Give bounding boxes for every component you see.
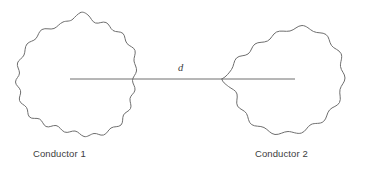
figure-canvas: d Conductor 1 Conductor 2 (0, 0, 367, 171)
conductor-1-label: Conductor 1 (33, 148, 86, 159)
distance-label-d: d (178, 62, 183, 73)
conductor-1-shape (16, 12, 137, 137)
conductor-2-label: Conductor 2 (255, 148, 308, 159)
conductor-2-shape (222, 26, 345, 135)
diagram-svg (0, 0, 367, 171)
